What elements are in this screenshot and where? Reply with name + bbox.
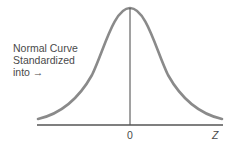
- curve-caption: Normal Curve Standardized into →: [13, 42, 78, 78]
- origin-label: 0: [127, 129, 133, 141]
- caption-line-1: Normal Curve: [13, 42, 78, 54]
- caption-line-2: Standardized: [13, 54, 78, 66]
- caption-line-3: into →: [13, 66, 78, 78]
- z-axis-label: Z: [212, 129, 218, 141]
